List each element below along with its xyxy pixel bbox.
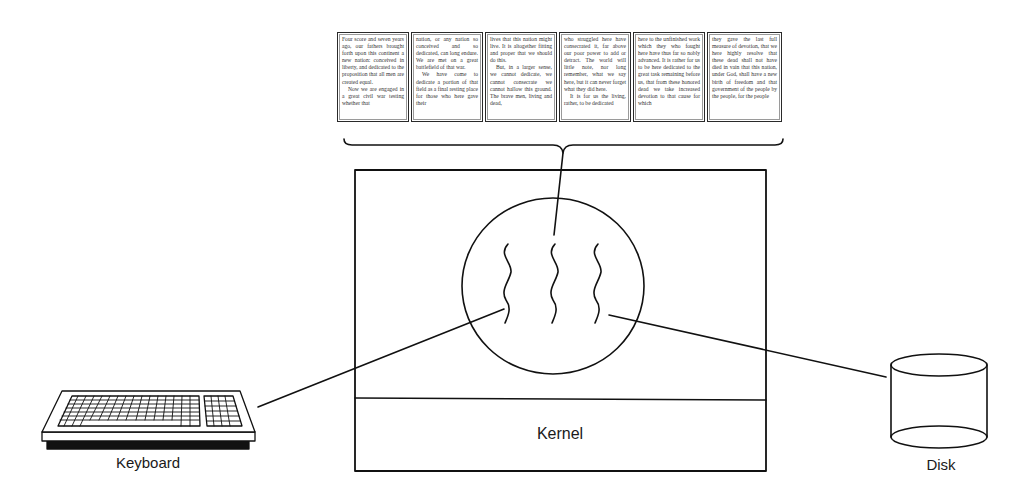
diagram-canvas: Four score and seven years ago, our fath… (0, 0, 1024, 501)
kernel-label: Kernel (537, 425, 583, 443)
thread-icon (551, 244, 558, 323)
kernel-divider (355, 398, 766, 400)
keyboard-icon (42, 391, 255, 449)
keyboard-label: Keyboard (116, 454, 180, 471)
edge-disk-to-process (609, 315, 886, 377)
disk-label: Disk (926, 456, 955, 473)
disk-icon (891, 354, 987, 448)
diagram-shapes (0, 0, 1024, 501)
curly-brace (344, 139, 783, 153)
thread-icon (504, 244, 511, 323)
edge-keyboard-to-process (258, 309, 504, 407)
thread-icon (594, 244, 601, 323)
edge-program-to-process (554, 153, 563, 235)
